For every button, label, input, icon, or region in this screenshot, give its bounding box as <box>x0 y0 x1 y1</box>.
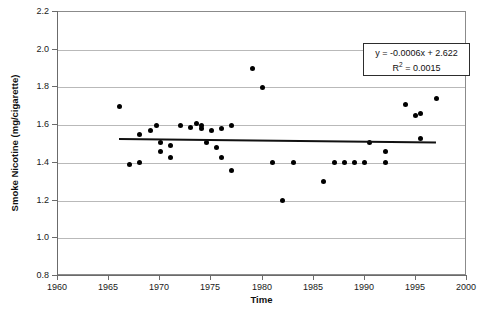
data-point <box>291 160 296 165</box>
y-tick-label: 0.8 <box>21 271 49 280</box>
x-tick-label: 1965 <box>88 283 128 292</box>
scatter-chart: Smoke Nicotine (mg/cigarette) y = -0.000… <box>0 0 489 311</box>
data-point <box>418 136 423 141</box>
data-point <box>403 102 408 107</box>
y-tick-label: 2.0 <box>21 45 49 54</box>
x-tick-label: 1980 <box>242 283 282 292</box>
y-axis-title: Smoke Nicotine (mg/cigarette) <box>8 11 22 275</box>
x-tick-label: 1975 <box>190 283 230 292</box>
gridline <box>58 125 465 126</box>
data-point <box>418 111 423 116</box>
x-tick-label: 1970 <box>139 283 179 292</box>
y-tick-label: 1.4 <box>21 158 49 167</box>
y-tick-label: 1.2 <box>21 196 49 205</box>
plot-area: y = -0.0006x + 2.622 R2 = 0.0015 <box>57 11 466 275</box>
x-tick-mark <box>466 276 467 280</box>
y-tick-label: 1.0 <box>21 233 49 242</box>
gridline <box>58 201 465 202</box>
data-point <box>137 160 142 165</box>
gridline <box>58 238 465 239</box>
r-squared-value: = 0.0015 <box>403 63 441 73</box>
y-tick-mark <box>52 162 57 163</box>
y-tick-mark <box>52 237 57 238</box>
data-point <box>362 160 367 165</box>
data-point <box>148 128 153 133</box>
y-tick-mark <box>52 200 57 201</box>
data-point <box>434 96 439 101</box>
y-tick-mark <box>52 124 57 125</box>
x-tick-label: 1995 <box>395 283 435 292</box>
x-tick-mark <box>210 276 211 280</box>
data-point <box>383 149 388 154</box>
data-point <box>168 143 173 148</box>
data-point <box>214 145 219 150</box>
data-point <box>137 132 142 137</box>
x-tick-label: 1960 <box>37 283 77 292</box>
data-point <box>199 126 204 131</box>
y-tick-label: 1.8 <box>21 82 49 91</box>
data-point <box>209 128 214 133</box>
x-axis-title: Time <box>57 294 466 305</box>
r-squared-text: R2 = 0.0015 <box>364 59 469 74</box>
data-point <box>260 85 265 90</box>
data-point <box>332 160 337 165</box>
x-tick-mark <box>313 276 314 280</box>
data-point <box>127 162 132 167</box>
y-tick-label: 1.6 <box>21 120 49 129</box>
data-point <box>280 198 285 203</box>
data-point <box>342 160 347 165</box>
x-tick-mark <box>108 276 109 280</box>
data-point <box>219 126 224 131</box>
regression-equation-box: y = -0.0006x + 2.622 R2 = 0.0015 <box>363 43 470 76</box>
data-point <box>194 121 199 126</box>
data-point <box>188 125 193 130</box>
data-point <box>178 123 183 128</box>
x-tick-label: 2000 <box>446 283 486 292</box>
x-tick-mark <box>57 276 58 280</box>
data-point <box>321 179 326 184</box>
regression-equation-text: y = -0.0006x + 2.622 <box>364 47 469 59</box>
data-point <box>219 155 224 160</box>
data-point <box>229 168 234 173</box>
data-point <box>250 66 255 71</box>
data-point <box>158 149 163 154</box>
data-point <box>229 123 234 128</box>
y-tick-mark <box>52 11 57 12</box>
trendline <box>119 138 436 144</box>
data-point <box>154 123 159 128</box>
x-tick-label: 1985 <box>293 283 333 292</box>
data-point <box>383 160 388 165</box>
y-tick-mark <box>52 86 57 87</box>
gridline <box>58 163 465 164</box>
data-point <box>168 155 173 160</box>
y-tick-label: 2.2 <box>21 7 49 16</box>
x-tick-mark <box>262 276 263 280</box>
x-tick-mark <box>415 276 416 280</box>
x-tick-mark <box>159 276 160 280</box>
data-point <box>270 160 275 165</box>
x-tick-label: 1990 <box>344 283 384 292</box>
data-point <box>352 160 357 165</box>
data-point <box>117 104 122 109</box>
x-tick-mark <box>364 276 365 280</box>
y-tick-mark <box>52 49 57 50</box>
y-axis-line <box>57 11 58 276</box>
